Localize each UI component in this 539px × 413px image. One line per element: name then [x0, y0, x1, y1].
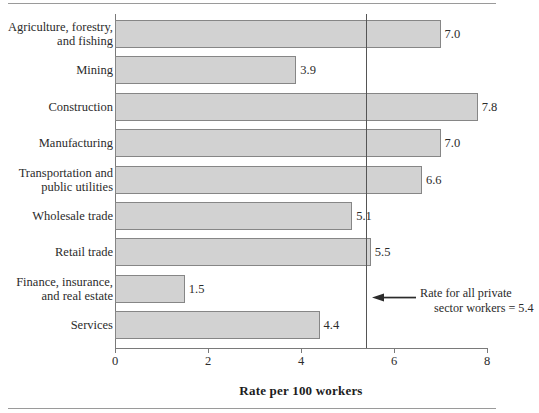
x-axis-tick-label: 4: [281, 354, 321, 369]
category-label: Retail trade: [0, 245, 113, 259]
annotation-line-1: Rate for all private: [420, 286, 539, 301]
x-axis-tick-mark: [301, 348, 302, 353]
category-label-line-1: Agriculture, forestry,: [0, 20, 113, 34]
bar: [115, 275, 185, 303]
bar-value-label: 5.5: [375, 245, 391, 259]
bar-value-label: 1.5: [189, 282, 205, 296]
x-axis-tick-label: 2: [188, 354, 228, 369]
bar: [115, 238, 371, 266]
x-axis-tick-label: 0: [95, 354, 135, 369]
category-label-line-2: and fishing: [0, 34, 113, 48]
bar-value-label: 6.6: [426, 173, 442, 187]
x-axis-tick-mark: [394, 348, 395, 353]
bar: [115, 129, 441, 157]
bar: [115, 202, 352, 230]
category-label-line-1: Wholesale trade: [0, 209, 113, 223]
x-axis-tick-mark: [208, 348, 209, 353]
category-label-line-1: Transportation and: [0, 166, 113, 180]
category-label: Mining: [0, 63, 113, 77]
category-label: Wholesale trade: [0, 209, 113, 223]
category-label-line-1: Retail trade: [0, 245, 113, 259]
bar-value-label: 4.4: [324, 318, 340, 332]
category-label: Construction: [0, 100, 113, 114]
x-axis-tick-mark: [487, 348, 488, 353]
category-label-line-1: Manufacturing: [0, 136, 113, 150]
category-label: Services: [0, 318, 113, 332]
x-axis-tick-mark: [115, 348, 116, 353]
bar: [115, 20, 441, 48]
bar: [115, 56, 296, 84]
bar-value-label: 5.1: [356, 209, 372, 223]
bar: [115, 93, 478, 121]
category-label: Transportation andpublic utilities: [0, 166, 113, 194]
x-axis-tick-label: 8: [467, 354, 507, 369]
bar-value-label: 7.0: [445, 136, 461, 150]
category-label: Agriculture, forestry,and fishing: [0, 20, 113, 48]
annotation-line-2: sector workers = 5.4: [420, 301, 539, 316]
bar-value-label: 3.9: [300, 63, 316, 77]
category-label-line-1: Services: [0, 318, 113, 332]
category-label-line-1: Construction: [0, 100, 113, 114]
bar: [115, 166, 422, 194]
category-label: Manufacturing: [0, 136, 113, 150]
x-axis-title: Rate per 100 workers: [115, 383, 487, 399]
left-arrow-icon: [372, 293, 416, 302]
category-label-line-1: Mining: [0, 63, 113, 77]
bar: [115, 311, 320, 339]
x-axis-tick-label: 6: [374, 354, 414, 369]
bar-value-label: 7.0: [445, 27, 461, 41]
bar-value-label: 7.8: [482, 100, 498, 114]
category-label-line-1: Finance, insurance,: [0, 275, 113, 289]
category-label-line-2: and real estate: [0, 289, 113, 303]
category-label: Finance, insurance,and real estate: [0, 275, 113, 303]
reference-line: [366, 14, 367, 348]
category-label-line-2: public utilities: [0, 180, 113, 194]
